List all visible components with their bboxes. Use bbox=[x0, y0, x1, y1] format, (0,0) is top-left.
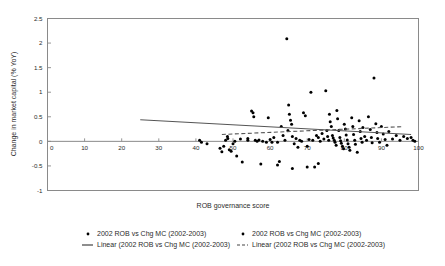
scatter-point bbox=[348, 149, 351, 152]
scatter-point bbox=[358, 119, 361, 122]
scatter-point bbox=[295, 137, 298, 140]
scatter-point bbox=[345, 133, 348, 136]
scatter-point bbox=[313, 165, 316, 168]
x-tick-label: 30 bbox=[155, 144, 162, 151]
scatter-point bbox=[354, 143, 357, 146]
scatter-point bbox=[252, 111, 255, 114]
scatter-point bbox=[276, 163, 279, 166]
legend-label: Linear (2002 ROB vs Chg MC (2002-2003) bbox=[252, 241, 385, 249]
scatter-point bbox=[335, 144, 338, 147]
y-tick-label: -1 bbox=[37, 187, 43, 194]
scatter-point bbox=[378, 141, 381, 144]
scatter-point bbox=[267, 116, 270, 119]
scatter-point bbox=[398, 139, 401, 142]
scatter-point bbox=[272, 136, 275, 139]
scatter-point bbox=[290, 123, 293, 126]
scatter-point bbox=[276, 141, 279, 144]
scatter-point bbox=[410, 136, 413, 139]
chart-figure: -1-0.500.511.522.5 102030405060708090100… bbox=[0, 0, 445, 266]
scatter-point bbox=[402, 135, 405, 138]
x-axis-title: ROB governance score bbox=[197, 202, 270, 210]
y-tick-label: 0.5 bbox=[34, 113, 43, 120]
scatter-point bbox=[356, 151, 359, 154]
y-tick-label: 1 bbox=[39, 88, 43, 95]
scatter-point bbox=[384, 138, 387, 141]
scatter-point bbox=[342, 147, 345, 150]
scatter-point bbox=[309, 91, 312, 94]
legend-label: 2002 ROB vs Chg MC (2002-2003) bbox=[252, 230, 361, 238]
scatter-point bbox=[391, 137, 394, 140]
scatter-point bbox=[352, 133, 355, 136]
scatter-point bbox=[329, 120, 332, 123]
scatter-point bbox=[311, 139, 314, 142]
scatter-point bbox=[282, 134, 285, 137]
scatter-point bbox=[343, 123, 346, 126]
scatter-point bbox=[351, 125, 354, 128]
scatter-point bbox=[336, 117, 339, 120]
scatter-point bbox=[376, 137, 379, 140]
legend-marker-dot bbox=[87, 233, 90, 236]
y-axis-title: Change in market capital (% YoY) bbox=[10, 52, 18, 157]
scatter-point bbox=[365, 139, 368, 142]
scatter-point bbox=[239, 137, 242, 140]
x-tick-label: 100 bbox=[413, 144, 424, 151]
scatter-point bbox=[232, 142, 235, 145]
scatter-point bbox=[289, 119, 292, 122]
scatter-point bbox=[222, 145, 225, 148]
scatter-point bbox=[304, 114, 307, 117]
scatter-point bbox=[293, 142, 296, 145]
scatter-point bbox=[278, 160, 281, 163]
scatter-point bbox=[269, 138, 272, 141]
scatter-point bbox=[261, 140, 264, 143]
scatter-point bbox=[324, 89, 327, 92]
scatter-point bbox=[340, 142, 343, 145]
y-tick-label: -0.5 bbox=[32, 162, 43, 169]
scatter-point bbox=[200, 141, 203, 144]
scatter-point bbox=[306, 145, 309, 148]
scatter-point bbox=[335, 109, 338, 112]
scatter-point bbox=[308, 138, 311, 141]
scatter-point bbox=[233, 140, 236, 143]
scatter-point bbox=[385, 144, 388, 147]
scatter-point bbox=[246, 139, 249, 142]
scatter-point bbox=[361, 141, 364, 144]
scatter-point bbox=[395, 134, 398, 137]
scatter-plot: -1-0.500.511.522.5 102030405060708090100… bbox=[0, 0, 445, 266]
legend-label: 2002 ROB vs Chg MC (2002-2003) bbox=[97, 230, 206, 238]
scatter-point bbox=[302, 111, 305, 114]
scatter-point bbox=[230, 150, 233, 153]
scatter-point bbox=[241, 161, 244, 164]
x-tick-label-zero: 0 bbox=[50, 144, 54, 151]
scatter-point bbox=[360, 137, 363, 140]
scatter-point bbox=[306, 165, 309, 168]
scatter-point bbox=[317, 136, 320, 139]
scatter-point bbox=[319, 140, 322, 143]
scatter-point bbox=[287, 103, 290, 106]
legend-marker-dot bbox=[242, 233, 245, 236]
scatter-point bbox=[334, 141, 337, 144]
scatter-point bbox=[326, 135, 329, 138]
x-tick-label: 10 bbox=[81, 144, 88, 151]
scatter-point bbox=[353, 139, 356, 142]
scatter-point bbox=[252, 115, 255, 118]
scatter-point bbox=[300, 140, 303, 143]
scatter-point bbox=[372, 76, 375, 79]
scatter-point bbox=[346, 138, 349, 141]
scatter-point bbox=[265, 141, 268, 144]
scatter-point bbox=[270, 141, 273, 144]
x-tick-label: 40 bbox=[192, 144, 199, 151]
y-tick-label: 2.5 bbox=[34, 15, 43, 22]
scatter-point bbox=[327, 139, 330, 142]
scatter-point bbox=[296, 146, 299, 149]
scatter-point bbox=[363, 135, 366, 138]
x-tick-label: 90 bbox=[378, 144, 385, 151]
x-tick-label: 60 bbox=[267, 144, 274, 151]
scatter-point bbox=[206, 142, 209, 145]
scatter-point bbox=[370, 136, 373, 139]
scatter-point bbox=[235, 155, 238, 158]
scatter-point bbox=[226, 137, 229, 140]
scatter-point bbox=[371, 141, 374, 144]
scatter-point bbox=[374, 122, 377, 125]
scatter-point bbox=[347, 142, 350, 145]
scatter-point bbox=[367, 115, 370, 118]
